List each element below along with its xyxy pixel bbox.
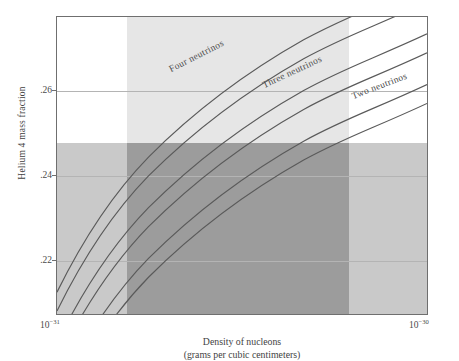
xtick-left-mantissa: 10 xyxy=(40,320,50,330)
xtick-left-exponent: −31 xyxy=(50,318,60,325)
ytick-mark-022 xyxy=(52,260,57,261)
xtick-right-mantissa: 10 xyxy=(409,320,419,330)
xtick-right-exponent: −30 xyxy=(419,318,429,325)
curve-three-neutrinos-upper xyxy=(57,34,427,314)
x-axis-title-units: (grams per cubic centimeters) xyxy=(56,348,428,361)
xtick-label-left: 10−31 xyxy=(40,320,60,330)
plot-area xyxy=(56,16,428,315)
curve-overlay xyxy=(57,17,427,314)
ytick-mark-026 xyxy=(52,90,57,91)
curve-four-neutrinos-lower xyxy=(57,17,427,311)
ytick-mark-024 xyxy=(52,175,57,176)
xtick-label-right: 10−30 xyxy=(409,320,429,330)
big-bang-nucleosynthesis-chart: Four neutrinos Three neutrinos Two neutr… xyxy=(0,0,459,361)
ytick-label-024: .24 xyxy=(6,170,52,180)
ytick-label-026: .26 xyxy=(6,85,52,95)
curve-two-neutrinos-lower xyxy=(57,103,427,314)
x-axis-title: Density of nucleons (grams per cubic cen… xyxy=(56,335,428,361)
ytick-label-022: .22 xyxy=(6,255,52,265)
y-axis-title: Helium 4 mass fraction xyxy=(17,53,27,213)
x-axis-title-main: Density of nucleons xyxy=(203,336,281,347)
